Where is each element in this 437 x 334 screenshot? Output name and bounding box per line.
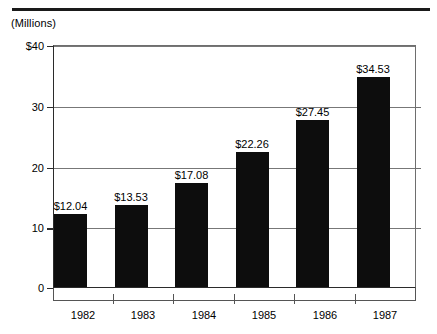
y-tick-mark-right-10 xyxy=(415,228,421,229)
y-tick-mark-40 xyxy=(47,46,54,47)
y-tick-mark-right-30 xyxy=(415,107,421,108)
category-rail-left-end xyxy=(53,288,54,301)
y-tick-mark-20 xyxy=(47,168,54,169)
bar-1983 xyxy=(115,205,148,287)
x-tick-mark-2 xyxy=(173,294,174,304)
y-tick-label-10: 10 xyxy=(32,223,44,234)
bar-chart-figure: (Millions) $40 30 20 10 0 $12.04 $13.53 … xyxy=(0,0,437,334)
y-tick-label-30: 30 xyxy=(32,101,44,112)
x-axis-label-1984: 1984 xyxy=(192,309,216,321)
y-tick-label-20: 20 xyxy=(32,162,44,173)
bar-value-label-1982: $12.04 xyxy=(54,201,88,212)
x-axis-label-1983: 1983 xyxy=(131,309,155,321)
bar-value-label-1985: $22.26 xyxy=(235,139,269,150)
top-rule-divider xyxy=(12,8,430,11)
bar-1982 xyxy=(54,214,87,287)
x-axis-label-1985: 1985 xyxy=(252,309,276,321)
bar-value-label-1987: $34.53 xyxy=(356,64,390,75)
bar-1985 xyxy=(236,152,269,287)
y-tick-mark-10 xyxy=(47,228,54,229)
y-tick-mark-30 xyxy=(47,107,54,108)
x-tick-mark-3 xyxy=(234,294,235,304)
y-tick-mark-right-20 xyxy=(415,168,421,169)
x-tick-mark-5 xyxy=(355,294,356,304)
bar-1987 xyxy=(357,77,390,287)
x-tick-mark-4 xyxy=(294,294,295,304)
bar-value-label-1983: $13.53 xyxy=(114,192,148,203)
gridline-40 xyxy=(54,46,415,47)
x-axis-label-1982: 1982 xyxy=(71,309,95,321)
bar-1986 xyxy=(296,120,329,287)
plot-area: $40 30 20 10 0 $12.04 $13.53 $17.08 $22.… xyxy=(53,45,416,288)
x-axis-label-1987: 1987 xyxy=(373,309,397,321)
y-tick-label-0: 0 xyxy=(38,283,44,294)
x-axis-label-1986: 1986 xyxy=(313,309,337,321)
category-rail-right-end xyxy=(415,288,416,301)
x-tick-mark-1 xyxy=(113,294,114,304)
bar-value-label-1986: $27.45 xyxy=(296,107,330,118)
bar-value-label-1984: $17.08 xyxy=(175,170,209,181)
y-tick-label-40: $40 xyxy=(26,41,44,52)
bar-1984 xyxy=(175,183,208,287)
y-axis-unit-label: (Millions) xyxy=(11,17,56,29)
